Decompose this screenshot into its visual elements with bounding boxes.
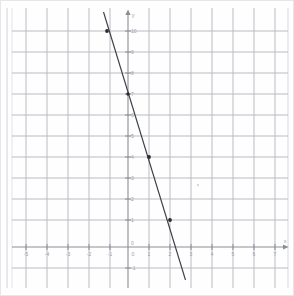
data-point [147, 155, 151, 159]
data-point [168, 218, 172, 222]
stray-mark [197, 184, 199, 186]
y-tick-label: 4 [131, 154, 134, 160]
coordinate-plane-svg: -5 -4 -3 -2 -1 0 1 2 3 4 5 6 7 10 9 8 7 … [0, 0, 294, 296]
x-tick-label: 6 [253, 251, 256, 257]
x-tick-label: 7 [274, 251, 277, 257]
x-tick-label: -1 [108, 251, 113, 257]
x-axis-title: x [284, 238, 287, 244]
y-tick-label: 7 [131, 91, 134, 97]
x-tick-label: -3 [66, 251, 71, 257]
y-tick-label: 9 [131, 49, 134, 55]
y-tick-label-origin: 0 [131, 240, 134, 246]
data-point [126, 92, 129, 95]
x-tick-label: -2 [87, 251, 92, 257]
x-tick-label: -5 [24, 251, 29, 257]
x-tick-label: 3 [190, 251, 193, 257]
x-tick-label: 4 [211, 251, 214, 257]
y-tick-label: 10 [131, 28, 137, 34]
y-tick-label: 2 [131, 196, 134, 202]
x-tick-label: 1 [148, 251, 151, 257]
x-tick-label: -4 [45, 251, 50, 257]
graph-canvas: -5 -4 -3 -2 -1 0 1 2 3 4 5 6 7 10 9 8 7 … [0, 0, 294, 296]
x-tick-label-origin: 0 [132, 251, 135, 257]
x-tick-label: 5 [232, 251, 235, 257]
data-point [105, 29, 109, 33]
y-tick-label: 6 [131, 112, 134, 118]
y-tick-label: 3 [131, 175, 134, 181]
x-tick-label: 2 [169, 251, 172, 257]
y-tick-label: 1 [131, 217, 134, 223]
y-axis-title: y [132, 12, 135, 18]
y-tick-label: 8 [131, 70, 134, 76]
y-tick-label: 5 [131, 133, 134, 139]
y-tick-label: -1 [131, 265, 136, 271]
